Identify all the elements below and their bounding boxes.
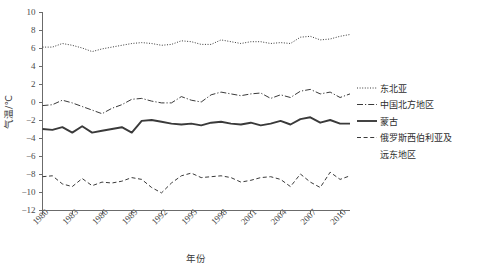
- y-tick-label: 6: [31, 43, 36, 53]
- x-tick-label: 1998: [209, 207, 229, 227]
- data-series-group: [43, 35, 351, 193]
- x-tick-label: 2001: [239, 207, 259, 227]
- y-tick-label: −4: [26, 133, 36, 143]
- x-tick-label: 2010: [328, 207, 348, 227]
- legend-label-1[interactable]: 中国北方地区: [380, 99, 434, 110]
- x-axis-ticks: 1980198319861989199219951998200120042007…: [30, 207, 348, 227]
- legend-label-2[interactable]: 蒙古: [380, 116, 398, 127]
- x-tick-label: 2007: [298, 207, 318, 227]
- y-tick-label: 0: [31, 97, 36, 107]
- y-axis-ticks: 1086420−2−4−6−8−10−12: [21, 7, 42, 215]
- legend-label-3[interactable]: 俄罗斯西伯利亚及: [380, 132, 452, 143]
- x-tick-label: 1986: [90, 207, 110, 227]
- axis-lines: [43, 12, 351, 211]
- x-tick-label: 2004: [269, 207, 289, 227]
- legend-label-0[interactable]: 东北亚: [380, 83, 407, 94]
- series-line-1: [43, 89, 351, 113]
- line-chart: 1086420−2−4−6−8−10−12 198019831986198919…: [0, 0, 481, 273]
- y-tick-label: −10: [21, 187, 36, 197]
- series-line-2: [43, 117, 351, 132]
- x-tick-label: 1995: [179, 207, 199, 227]
- x-tick-label: 1992: [150, 207, 170, 227]
- y-tick-label: −12: [21, 205, 35, 215]
- y-tick-label: −2: [26, 115, 36, 125]
- y-tick-label: 8: [31, 25, 36, 35]
- legend-label-3-continued: 远东地区: [380, 149, 416, 160]
- y-tick-label: −8: [26, 169, 36, 179]
- x-axis-title: 年份: [186, 253, 206, 264]
- y-tick-label: 10: [27, 7, 37, 17]
- x-tick-label: 1983: [60, 207, 80, 227]
- y-tick-label: 4: [31, 61, 36, 71]
- y-axis-title: 气温/℃: [3, 95, 14, 129]
- y-tick-label: −6: [26, 151, 36, 161]
- chart-figure: 1086420−2−4−6−8−10−12 198019831986198919…: [0, 0, 481, 273]
- y-tick-label: 2: [31, 79, 36, 89]
- series-line-0: [43, 35, 351, 52]
- x-tick-label: 1989: [120, 207, 140, 227]
- chart-legend: 东北亚中国北方地区蒙古俄罗斯西伯利亚及远东地区: [357, 83, 452, 160]
- series-line-3: [43, 172, 351, 193]
